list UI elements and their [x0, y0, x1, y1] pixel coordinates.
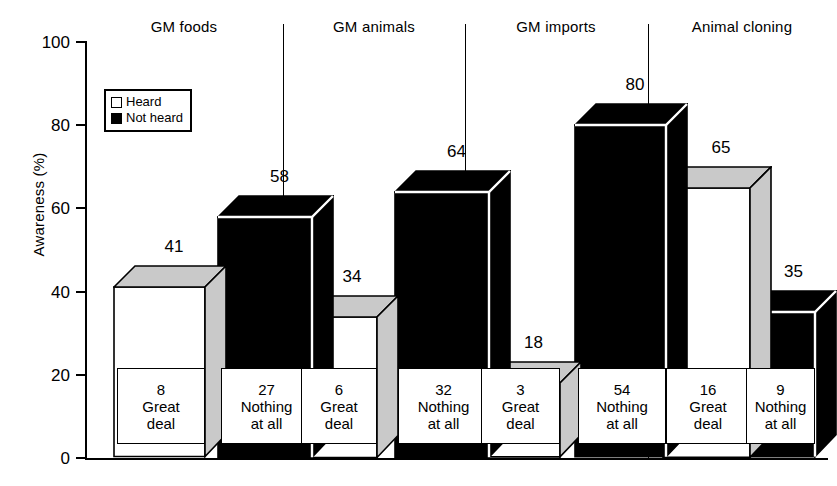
bar-inner-label-box-1: 27Nothingat all	[221, 368, 312, 444]
legend-label-not-heard: Not heard	[126, 110, 183, 126]
bar-inner-label-box-5: 54Nothingat all	[578, 368, 666, 444]
inner-label-value-4: 3	[516, 381, 524, 398]
inner-label-line2-1: at all	[251, 415, 283, 432]
inner-label-line1-0: Great	[142, 398, 180, 415]
legend-swatch-heard-icon	[111, 97, 122, 108]
legend-swatch-not-heard-icon	[111, 113, 122, 124]
group-title-gm-imports: GM imports	[516, 18, 596, 35]
bar-inner-label-box-3: 32Nothingat all	[398, 368, 489, 444]
y-tick-80	[76, 124, 87, 126]
y-tick-100	[76, 41, 87, 43]
y-tick-label-20: 20	[0, 367, 70, 384]
inner-label-line2-6: deal	[694, 415, 722, 432]
chart-legend: Heard Not heard	[104, 89, 192, 132]
bar-value-label-1: 58	[270, 167, 289, 187]
bar-value-label-3: 64	[447, 142, 466, 162]
inner-label-line1-3: Nothing	[418, 398, 470, 415]
bar-inner-label-box-4: 3Greatdeal	[481, 368, 560, 444]
x-axis-line	[85, 458, 828, 460]
group-title-gm-animals: GM animals	[333, 18, 415, 35]
y-axis-line	[85, 42, 87, 459]
y-tick-20	[76, 374, 87, 376]
bar-value-label-0: 41	[165, 237, 184, 257]
inner-label-line1-5: Nothing	[596, 398, 648, 415]
inner-label-value-5: 54	[614, 381, 631, 398]
bar-value-label-5: 80	[626, 75, 645, 95]
inner-label-value-0: 8	[157, 381, 165, 398]
inner-label-line1-4: Great	[502, 398, 540, 415]
group-title-animal-cloning: Animal cloning	[692, 18, 792, 35]
bar-inner-label-box-2: 6Greatdeal	[301, 368, 377, 444]
legend-item-not-heard: Not heard	[111, 110, 183, 126]
inner-label-line1-2: Great	[320, 398, 358, 415]
inner-label-line1-1: Nothing	[241, 398, 293, 415]
inner-label-value-7: 9	[776, 381, 784, 398]
y-tick-label-0: 0	[0, 450, 70, 467]
bar-value-label-2: 34	[343, 267, 362, 287]
inner-label-line2-7: at all	[765, 415, 797, 432]
bar-value-label-7: 35	[784, 262, 803, 282]
inner-label-value-3: 32	[435, 381, 452, 398]
bar-inner-label-box-0: 8Greatdeal	[117, 368, 205, 444]
inner-label-line2-3: at all	[428, 415, 460, 432]
inner-label-line2-4: deal	[506, 415, 534, 432]
inner-label-value-6: 16	[700, 381, 717, 398]
inner-label-line2-5: at all	[606, 415, 638, 432]
y-tick-label-100: 100	[0, 34, 70, 51]
group-title-gm-foods: GM foods	[151, 18, 218, 35]
inner-label-line2-2: deal	[325, 415, 353, 432]
inner-label-value-1: 27	[258, 381, 275, 398]
bar-value-label-4: 18	[524, 333, 543, 353]
bar-inner-label-box-7: 9Nothingat all	[746, 368, 815, 444]
y-tick-0	[76, 457, 87, 459]
inner-label-line2-0: deal	[147, 415, 175, 432]
inner-label-line1-7: Nothing	[755, 398, 807, 415]
bar-value-label-6: 65	[712, 138, 731, 158]
legend-label-heard: Heard	[126, 94, 161, 110]
inner-label-line1-6: Great	[689, 398, 727, 415]
y-tick-label-40: 40	[0, 284, 70, 301]
legend-item-heard: Heard	[111, 94, 183, 110]
bar-inner-label-box-6: 16Greatdeal	[666, 368, 750, 444]
y-tick-40	[76, 291, 87, 293]
y-tick-label-80: 80	[0, 117, 70, 134]
y-tick-label-60: 60	[0, 200, 70, 217]
inner-label-value-2: 6	[335, 381, 343, 398]
y-tick-60	[76, 207, 87, 209]
